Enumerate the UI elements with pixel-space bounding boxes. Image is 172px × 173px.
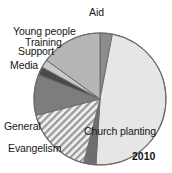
slice-label-support: Support [18, 46, 54, 57]
slice-label-media: Media [10, 60, 38, 71]
slice-label-aid: Aid [89, 7, 104, 18]
pie-chart: Aid Young people Training Support Media … [0, 0, 172, 173]
slice-label-general: General [4, 121, 41, 132]
slice-label-evangelism: Evangelism [8, 143, 61, 154]
slice-label-church-planting: Church planting [84, 126, 156, 137]
chart-year-label: 2010 [132, 150, 155, 162]
